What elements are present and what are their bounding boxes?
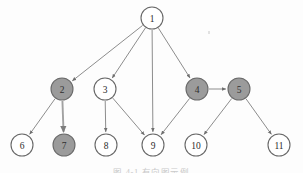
edge-4-to-9 (161, 98, 189, 134)
edge-5-to-11 (246, 99, 271, 134)
figure-canvas: 1234567891011 图 4-1 有向图示例 (0, 0, 303, 173)
graph-node-2[interactable]: 2 (51, 78, 73, 100)
node-circle-2[interactable] (51, 78, 73, 100)
node-circle-8[interactable] (95, 134, 117, 156)
edge-1-to-4 (158, 28, 190, 78)
graph-node-3[interactable]: 3 (94, 78, 116, 100)
edge-2-to-6 (30, 99, 55, 134)
node-circle-11[interactable] (268, 134, 290, 156)
graph-node-4[interactable]: 4 (186, 78, 208, 100)
edge-5-to-10 (204, 99, 232, 135)
node-circle-4[interactable] (186, 78, 208, 100)
graph-node-11[interactable]: 11 (268, 134, 290, 156)
node-circle-3[interactable] (94, 78, 116, 100)
node-circle-5[interactable] (228, 78, 250, 100)
directed-graph: 1234567891011 (0, 0, 303, 173)
graph-node-6[interactable]: 6 (11, 134, 33, 156)
edge-3-to-9 (113, 98, 145, 135)
graph-node-7[interactable]: 7 (53, 134, 75, 156)
nodes-layer: 1234567891011 (11, 7, 290, 156)
node-circle-6[interactable] (11, 134, 33, 156)
edge-1-to-3 (112, 28, 145, 78)
figure-caption: 图 4-1 有向图示例 (0, 166, 303, 173)
graph-node-9[interactable]: 9 (142, 134, 164, 156)
node-circle-7[interactable] (53, 134, 75, 156)
graph-node-1[interactable]: 1 (141, 7, 163, 29)
node-circle-1[interactable] (141, 7, 163, 29)
edge-1-to-2 (72, 25, 142, 80)
edge-2-to-7 (62, 101, 63, 132)
artifact-speck (208, 31, 210, 34)
edge-1-to-9 (152, 30, 153, 132)
graph-node-10[interactable]: 10 (185, 134, 207, 156)
graph-node-8[interactable]: 8 (95, 134, 117, 156)
node-circle-9[interactable] (142, 134, 164, 156)
node-circle-10[interactable] (185, 134, 207, 156)
edge-3-to-8 (105, 101, 106, 132)
graph-node-5[interactable]: 5 (228, 78, 250, 100)
